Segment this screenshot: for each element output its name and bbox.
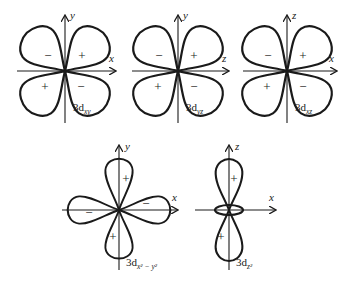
orbital-label: 3dz²	[236, 256, 253, 271]
sign-lower-left: +	[154, 79, 161, 94]
sign-bottom: +	[109, 229, 116, 244]
orbital-label: 3dx² − y²	[126, 256, 158, 271]
sign-upper-left: −	[44, 48, 51, 63]
vertical-axis-label: z	[291, 9, 297, 21]
orbital-3dxy: − + + − y x 3dxy	[13, 9, 118, 123]
sign-lower-left: +	[263, 79, 270, 94]
sign-lower-left: +	[41, 79, 48, 94]
sign-top: +	[122, 171, 129, 186]
sign-lower-right: −	[190, 79, 197, 94]
vertical-axis-label: y	[69, 9, 75, 21]
sign-upper-right: +	[190, 48, 197, 63]
orbital-3dx2-y2: + + − − y x 3dx² − y²	[62, 140, 177, 271]
orbital-diagram: − + + − y x 3dxy − + + − y z 3dyz − + + …	[0, 0, 347, 283]
sign-right: −	[142, 196, 149, 211]
sign-upper-right: +	[299, 48, 306, 63]
orbital-3dxz: − + + − z x 3dxz	[235, 9, 340, 123]
horizontal-axis-label: x	[268, 191, 274, 203]
sign-lower-right: −	[299, 79, 306, 94]
horizontal-axis-label: x	[171, 191, 177, 203]
sign-bottom: +	[217, 229, 224, 244]
sign-left: −	[85, 205, 92, 220]
horizontal-axis-label: x	[328, 52, 334, 64]
sign-lower-right: −	[77, 79, 84, 94]
horizontal-axis-label: z	[221, 52, 227, 64]
sign-upper-right: +	[78, 48, 85, 63]
sign-upper-left: −	[264, 48, 271, 63]
vertical-axis-label: y	[182, 9, 188, 21]
horizontal-axis-label: x	[108, 52, 114, 64]
orbital-3dz2: + + z x 3dz²	[195, 140, 275, 271]
orbital-3dyz: − + + − y z 3dyz	[126, 9, 231, 123]
sign-upper-left: −	[155, 48, 162, 63]
orbital-label: 3dxy	[73, 101, 91, 116]
sign-top: +	[230, 171, 237, 186]
vertical-axis-label: y	[124, 140, 130, 152]
vertical-axis-label: z	[234, 140, 240, 152]
